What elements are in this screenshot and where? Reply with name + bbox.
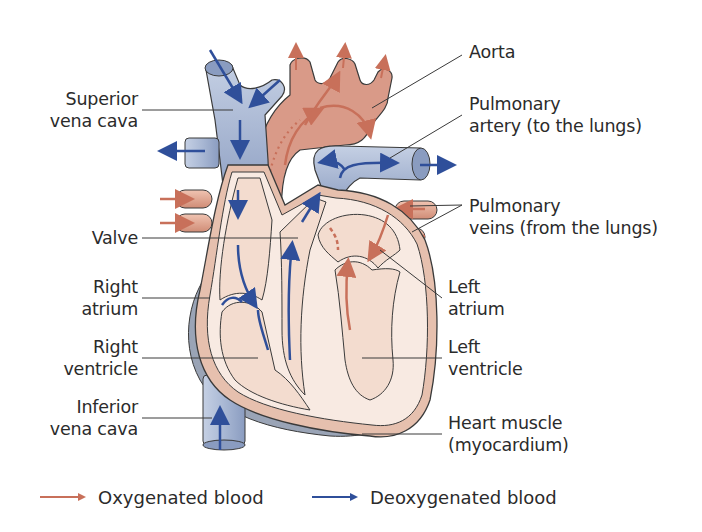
label-line: artery (to the lungs) xyxy=(469,115,642,137)
label-aorta: Aorta xyxy=(469,41,515,63)
label-line: vena cava xyxy=(20,418,138,440)
label-line: Left xyxy=(448,336,523,358)
label-line: Pulmonary xyxy=(469,195,658,217)
label-line: Right xyxy=(20,276,138,298)
legend-label: Oxygenated blood xyxy=(98,487,264,508)
pulmonary-veins-left xyxy=(160,190,212,232)
label-valve: Valve xyxy=(20,227,138,249)
label-left-atrium: Left atrium xyxy=(448,276,505,320)
legend-deoxygenated: Deoxygenated blood xyxy=(310,484,557,510)
label-line: vena cava xyxy=(20,110,138,132)
label-line: Heart muscle xyxy=(448,412,569,434)
label-line: Aorta xyxy=(469,41,515,63)
label-line: ventricle xyxy=(448,358,523,380)
label-right-atrium: Right atrium xyxy=(20,276,138,320)
label-right-ventricle: Right ventricle xyxy=(20,336,138,380)
label-line: atrium xyxy=(20,298,138,320)
label-pulmonary-veins: Pulmonary veins (from the lungs) xyxy=(469,195,658,239)
label-superior-vena-cava: Superior vena cava xyxy=(20,88,138,132)
label-left-ventricle: Left ventricle xyxy=(448,336,523,380)
arrow-right-red-icon xyxy=(38,491,88,503)
label-line: (myocardium) xyxy=(448,434,569,456)
label-line: Pulmonary xyxy=(469,93,642,115)
label-line: Right xyxy=(20,336,138,358)
label-line: veins (from the lungs) xyxy=(469,217,658,239)
label-inferior-vena-cava: Inferior vena cava xyxy=(20,396,138,440)
label-line: atrium xyxy=(448,298,505,320)
label-line: ventricle xyxy=(20,358,138,380)
arrow-right-blue-icon xyxy=(310,491,360,503)
legend-oxygenated: Oxygenated blood xyxy=(38,484,264,510)
heart-diagram xyxy=(0,0,702,532)
label-line: Superior xyxy=(20,88,138,110)
label-heart-muscle: Heart muscle (myocardium) xyxy=(448,412,569,456)
label-line: Left xyxy=(448,276,505,298)
label-line: Valve xyxy=(20,227,138,249)
legend-label: Deoxygenated blood xyxy=(370,487,557,508)
label-pulmonary-artery: Pulmonary artery (to the lungs) xyxy=(469,93,642,137)
label-line: Inferior xyxy=(20,396,138,418)
